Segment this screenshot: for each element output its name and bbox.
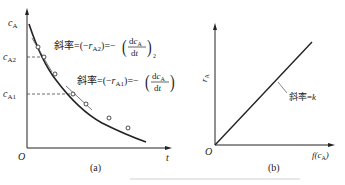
svg-text:): ) [170, 73, 175, 93]
svg-text:dcA: dcA [129, 36, 143, 47]
a-y-axis-arrow-icon [25, 8, 29, 15]
svg-text:斜率=(−rA2)=−: 斜率=(−rA2)=− [54, 39, 116, 53]
a-slope-annotation-2: 斜率=(−rA2)=− ( dcA dt ) 2 [54, 36, 156, 59]
svg-text:dt: dt [131, 48, 139, 58]
svg-text:斜率=(−rA1)=−: 斜率=(−rA1)=− [77, 74, 139, 88]
svg-text:2: 2 [153, 53, 156, 59]
b-x-axis-arrow-icon [328, 143, 335, 147]
figure-b: 斜率=k rA O f(cA) (b) [199, 23, 335, 174]
b-slope-leader [278, 82, 287, 93]
a-tick-cA1: cA1 [3, 88, 17, 101]
a-x-axis-label: t [166, 152, 169, 163]
a-x-axis-arrow-icon [165, 146, 172, 150]
a-origin-label: O [18, 151, 25, 162]
svg-text:(: ( [122, 38, 127, 58]
b-slope-annotation: 斜率=k [289, 91, 317, 102]
a-y-axis-label: cA [8, 17, 18, 30]
b-origin-label: O [205, 146, 212, 157]
svg-text:dcA: dcA [152, 71, 166, 82]
a-slope-annotation-1: 斜率=(−rA1)=− ( dcA dt ) [77, 71, 175, 93]
b-y-axis-label: rA [199, 73, 210, 82]
b-panel-label: (b) [268, 162, 280, 174]
a-tangent-2 [32, 38, 52, 72]
a-panel-label: (a) [90, 162, 101, 174]
b-x-axis-label: f(cA) [312, 150, 329, 161]
figure-a: cA cA2 cA1 O t 斜率=(−rA2)=− ( dcA dt ) 2 … [3, 8, 175, 174]
b-y-axis-arrow-icon [213, 23, 217, 30]
a-tick-cA2: cA2 [3, 51, 17, 64]
svg-text:(: ( [145, 73, 150, 93]
svg-text:): ) [147, 38, 152, 58]
svg-text:dt: dt [154, 83, 162, 93]
figure-caption-faint [130, 178, 300, 180]
figure-canvas: cA cA2 cA1 O t 斜率=(−rA2)=− ( dcA dt ) 2 … [0, 0, 345, 185]
